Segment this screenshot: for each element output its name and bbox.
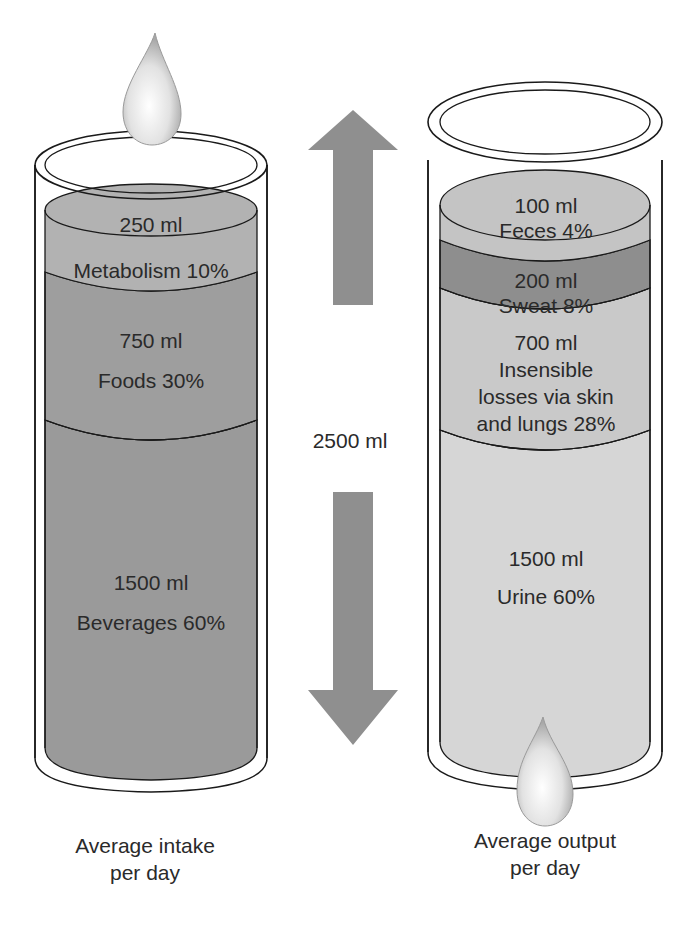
output-caption-line2: per day: [474, 854, 616, 881]
output-urine-amount: 1500 ml: [509, 546, 584, 572]
output-caption: Average output per day: [474, 827, 616, 881]
output-caption-line1: Average output: [474, 827, 616, 854]
output-sweat-label: Sweat 8%: [499, 293, 594, 319]
intake-layer-beverages: [45, 420, 257, 780]
intake-layer-foods: [45, 272, 257, 440]
intake-foods-label: Foods 30%: [98, 368, 204, 394]
arrow-down-icon: [308, 492, 398, 745]
intake-metabolism-amount: 250 ml: [119, 212, 182, 238]
water-drop-icon: [123, 33, 181, 145]
output-sweat-amount: 200 ml: [514, 268, 577, 294]
output-feces-label: Feces 4%: [499, 218, 592, 244]
water-balance-diagram: [0, 0, 690, 926]
output-insensible-label-3: and lungs 28%: [477, 411, 616, 437]
output-feces-amount: 100 ml: [511, 193, 580, 219]
intake-metabolism-label: Metabolism 10%: [73, 258, 228, 284]
intake-caption-line1: Average intake: [75, 832, 215, 859]
total-volume-label: 2500 ml: [313, 428, 388, 454]
intake-caption-line2: per day: [75, 859, 215, 886]
output-insensible-amount: 700 ml: [514, 330, 577, 356]
output-insensible-label-1: Insensible: [499, 357, 594, 383]
intake-beverages-label: Beverages 60%: [77, 610, 225, 636]
output-insensible-label-2: losses via skin: [478, 384, 613, 410]
intake-beverages-amount: 1500 ml: [114, 570, 189, 596]
intake-caption: Average intake per day: [75, 832, 215, 886]
output-urine-label: Urine 60%: [497, 584, 595, 610]
arrow-up-icon: [308, 110, 398, 305]
intake-foods-amount: 750 ml: [119, 328, 182, 354]
